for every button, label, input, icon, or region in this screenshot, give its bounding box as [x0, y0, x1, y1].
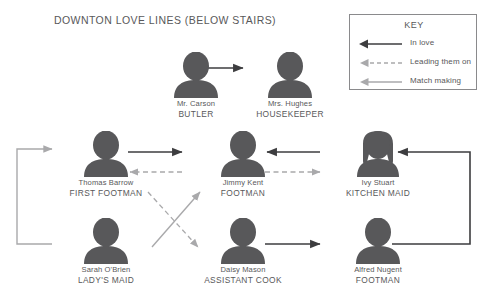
node-role: KITCHEN MAID: [330, 188, 426, 198]
left-arrow-icon: [358, 37, 404, 51]
legend-label: Leading them on: [410, 57, 471, 66]
node-daisy[interactable]: Daisy Mason ASSISTANT COOK: [195, 218, 291, 285]
legend-entry-in-love: In love: [358, 37, 474, 51]
node-name: Ivy Stuart: [330, 178, 426, 188]
legend-label: In love: [410, 38, 434, 47]
node-carson[interactable]: Mr. Carson BUTLER: [148, 52, 244, 119]
node-hughes[interactable]: Mrs. Hughes HOUSEKEEPER: [242, 52, 338, 119]
female-silhouette-icon: [58, 218, 154, 264]
female-silhouette-icon: [242, 52, 338, 98]
node-ivy[interactable]: Ivy Stuart KITCHEN MAID: [330, 131, 426, 198]
longhair-silhouette-icon: [330, 131, 426, 177]
node-name: Alfred Nugent: [330, 265, 426, 275]
edge-sarah-thomas-matchmaking: [17, 149, 52, 244]
legend-box: KEY In love Leading them on: [349, 14, 477, 90]
edge-daisy-jimmy-inlove: [152, 192, 200, 247]
male-silhouette-icon: [195, 131, 291, 177]
male-silhouette-icon: [58, 131, 154, 177]
node-alfred[interactable]: Alfred Nugent FOOTMAN: [330, 218, 426, 285]
node-name: Mrs. Hughes: [242, 99, 338, 109]
node-role: FOOTMAN: [330, 275, 426, 285]
node-name: Daisy Mason: [195, 265, 291, 275]
female-silhouette-icon: [195, 218, 291, 264]
legend-entry-match-making: Match making: [358, 75, 474, 89]
node-role: ASSISTANT COOK: [195, 275, 291, 285]
node-thomas[interactable]: Thomas Barrow FIRST FOOTMAN: [58, 131, 154, 198]
legend-entry-leading-them-on: Leading them on: [358, 56, 474, 70]
node-role: HOUSEKEEPER: [242, 109, 338, 119]
diagram-canvas: DOWNTON LOVE LINES (BELOW STAIRS): [0, 0, 485, 300]
left-arrow-dashed-icon: [358, 56, 404, 70]
node-role: FOOTMAN: [195, 188, 291, 198]
node-name: Sarah O'Brien: [58, 265, 154, 275]
legend-title: KEY: [350, 20, 478, 30]
node-jimmy[interactable]: Jimmy Kent FOOTMAN: [195, 131, 291, 198]
legend-label: Match making: [410, 76, 461, 85]
edge-thomas-daisy-leading: [148, 192, 198, 247]
node-role: BUTLER: [148, 109, 244, 119]
node-name: Thomas Barrow: [58, 178, 154, 188]
node-name: Mr. Carson: [148, 99, 244, 109]
node-role: LADY'S MAID: [58, 275, 154, 285]
left-arrow-light-icon: [358, 75, 404, 89]
node-role: FIRST FOOTMAN: [58, 188, 154, 198]
male-silhouette-icon: [330, 218, 426, 264]
node-name: Jimmy Kent: [195, 178, 291, 188]
male-silhouette-icon: [148, 52, 244, 98]
node-sarah[interactable]: Sarah O'Brien LADY'S MAID: [58, 218, 154, 285]
